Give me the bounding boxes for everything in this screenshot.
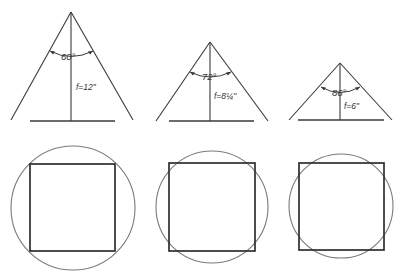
image-circle [289,154,393,258]
focal-length-label: f=8¼" [214,91,237,101]
film-format-square [30,164,115,251]
left-ray [11,12,71,120]
angle-label: 86° [332,87,347,98]
right-ray [210,42,268,121]
focal-length-label: f=12" [76,82,97,92]
lens-8-25in-triangle: 72° f=8¼" [156,42,268,121]
focal-length-label: f=6" [344,101,360,111]
image-circle [156,151,268,263]
right-ray [71,12,133,120]
lens-coverage-diagram: 60° f=12" 72° f=8¼" 86° f=6" [0,0,406,277]
film-format-square [169,163,255,251]
film-format-square [299,163,384,250]
coverage-12in [11,146,135,270]
coverage-8-25in [156,151,268,263]
lens-6in-triangle: 86° f=6" [289,63,392,120]
lens-12in-triangle: 60° f=12" [11,12,133,121]
angle-label: 60° [61,51,76,62]
coverage-6in [289,154,393,258]
angle-label: 72° [202,71,217,82]
